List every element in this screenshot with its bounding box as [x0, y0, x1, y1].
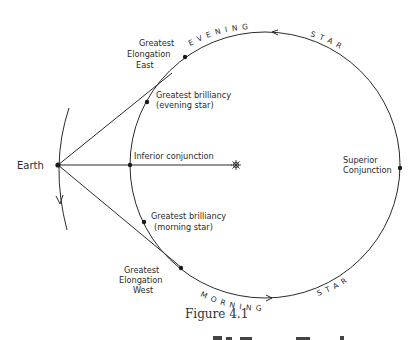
greatest-brilliancy-evening-label-2: (evening star) — [156, 100, 214, 110]
sun-icon — [231, 160, 241, 170]
greatest-elongation-east-label-2: Elongation — [127, 49, 171, 59]
earth-orbit-arc — [59, 108, 69, 230]
superior-conjunction-point — [398, 166, 402, 170]
greatest-brilliancy-evening-label-1: Greatest brilliancy — [156, 90, 231, 100]
superior-conjunction-label-1: Superior — [343, 155, 378, 165]
greatest-elongation-east-label-1: Greatest — [139, 38, 175, 48]
earth-orbit-arrow-icon — [56, 195, 63, 204]
greatest-brilliancy-morning-label-2: (morning star) — [154, 222, 213, 232]
earth-label: Earth — [17, 160, 44, 171]
evening-arc-label: EVENING — [187, 22, 253, 48]
earth-point — [55, 162, 60, 167]
inferior-conjunction-point — [128, 163, 132, 167]
greatest-elongation-east-point — [183, 55, 187, 59]
greatest-elongation-west-point — [179, 266, 183, 270]
figure-caption: Figure 4.1 — [185, 307, 248, 321]
greatest-brilliancy-morning-label-1: Greatest brilliancy — [151, 211, 226, 221]
greatest-elongation-west-label-3: West — [133, 285, 154, 295]
greatest-elongation-east-label-3: East — [136, 60, 154, 70]
greatest-elongation-west-label-1: Greatest — [124, 265, 160, 275]
inferior-conjunction-label: Inferior conjunction — [134, 151, 214, 161]
greatest-brilliancy-evening-point — [145, 100, 149, 104]
greatest-elongation-west-label-2: Elongation — [119, 275, 163, 285]
superior-conjunction-label-2: Conjunction — [343, 165, 392, 175]
greatest-brilliancy-morning-point — [142, 220, 146, 224]
venus-orbit-diagram: Earth Inferior conjunction Superior Conj… — [0, 0, 419, 340]
cut-off-text-fragments — [213, 336, 344, 340]
